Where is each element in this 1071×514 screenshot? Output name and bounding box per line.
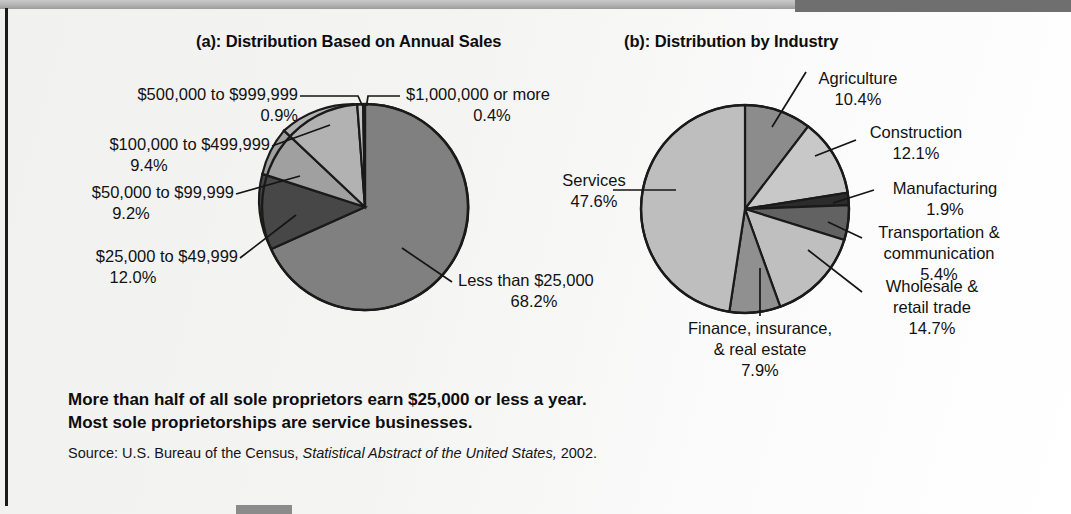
label-wholesale-name-line1: Wholesale & bbox=[868, 276, 996, 297]
label-manufacturing: Manufacturing 1.9% bbox=[880, 178, 1010, 220]
label-wholesale-pct: 14.7% bbox=[868, 318, 996, 339]
label-1000000-or-more-name: $1,000,000 or more bbox=[406, 84, 636, 105]
label-50000-99999-name: $50,000 to $99,999 bbox=[28, 182, 234, 203]
label-manufacturing-name: Manufacturing bbox=[880, 178, 1010, 199]
label-less-than-25000-name: Less than $25,000 bbox=[458, 270, 658, 291]
label-less-than-25000-pct: 68.2% bbox=[458, 291, 610, 312]
label-less-than-25000: Less than $25,000 68.2% bbox=[458, 270, 658, 312]
label-25000-49999-pct: 12.0% bbox=[28, 267, 238, 288]
label-100000-499999: $100,000 to $499,999 9.4% bbox=[28, 134, 270, 176]
figure-page: (a): Distribution Based on Annual Sales … bbox=[0, 0, 1071, 514]
label-construction: Construction 12.1% bbox=[860, 122, 972, 164]
source-suffix: 2002. bbox=[557, 445, 597, 461]
label-transportation-name-line2: communication bbox=[866, 243, 1012, 264]
label-500000-999999: $500,000 to $999,999 0.9% bbox=[56, 84, 298, 126]
label-25000-49999: $25,000 to $49,999 12.0% bbox=[28, 246, 238, 288]
label-agriculture: Agriculture 10.4% bbox=[808, 68, 908, 110]
label-100000-499999-pct: 9.4% bbox=[28, 155, 270, 176]
label-finance-name-line1: Finance, insurance, bbox=[652, 318, 868, 339]
label-100000-499999-name: $100,000 to $499,999 bbox=[28, 134, 270, 155]
label-transportation-name-line1: Transportation & bbox=[866, 222, 1012, 243]
label-500000-999999-pct: 0.9% bbox=[56, 105, 298, 126]
label-agriculture-name: Agriculture bbox=[808, 68, 908, 89]
label-manufacturing-pct: 1.9% bbox=[880, 199, 1010, 220]
label-finance: Finance, insurance, & real estate 7.9% bbox=[652, 318, 868, 381]
label-services-name: Services bbox=[530, 170, 658, 191]
label-50000-99999-pct: 9.2% bbox=[28, 203, 234, 224]
label-finance-pct: 7.9% bbox=[652, 360, 868, 381]
label-1000000-or-more-pct: 0.4% bbox=[406, 105, 578, 126]
label-finance-name-line2: & real estate bbox=[652, 339, 868, 360]
label-services-pct: 47.6% bbox=[530, 191, 658, 212]
label-agriculture-pct: 10.4% bbox=[808, 89, 908, 110]
label-wholesale-name-line2: retail trade bbox=[868, 297, 996, 318]
label-50000-99999: $50,000 to $99,999 9.2% bbox=[28, 182, 234, 224]
source-prefix: Source: U.S. Bureau of the Census, bbox=[68, 445, 303, 461]
label-25000-49999-name: $25,000 to $49,999 bbox=[28, 246, 238, 267]
figure-source: Source: U.S. Bureau of the Census, Stati… bbox=[68, 444, 608, 463]
label-1000000-or-more: $1,000,000 or more 0.4% bbox=[406, 84, 636, 126]
label-construction-name: Construction bbox=[860, 122, 972, 143]
label-500000-999999-name: $500,000 to $999,999 bbox=[56, 84, 298, 105]
label-wholesale-retail: Wholesale & retail trade 14.7% bbox=[868, 276, 996, 339]
label-construction-pct: 12.1% bbox=[860, 143, 972, 164]
figure-caption: More than half of all sole proprietors e… bbox=[68, 388, 608, 434]
pie-chart-b bbox=[641, 105, 849, 313]
label-services: Services 47.6% bbox=[530, 170, 658, 212]
source-italic-title: Statistical Abstract of the United State… bbox=[303, 445, 557, 461]
pie-chart-a bbox=[259, 104, 468, 310]
